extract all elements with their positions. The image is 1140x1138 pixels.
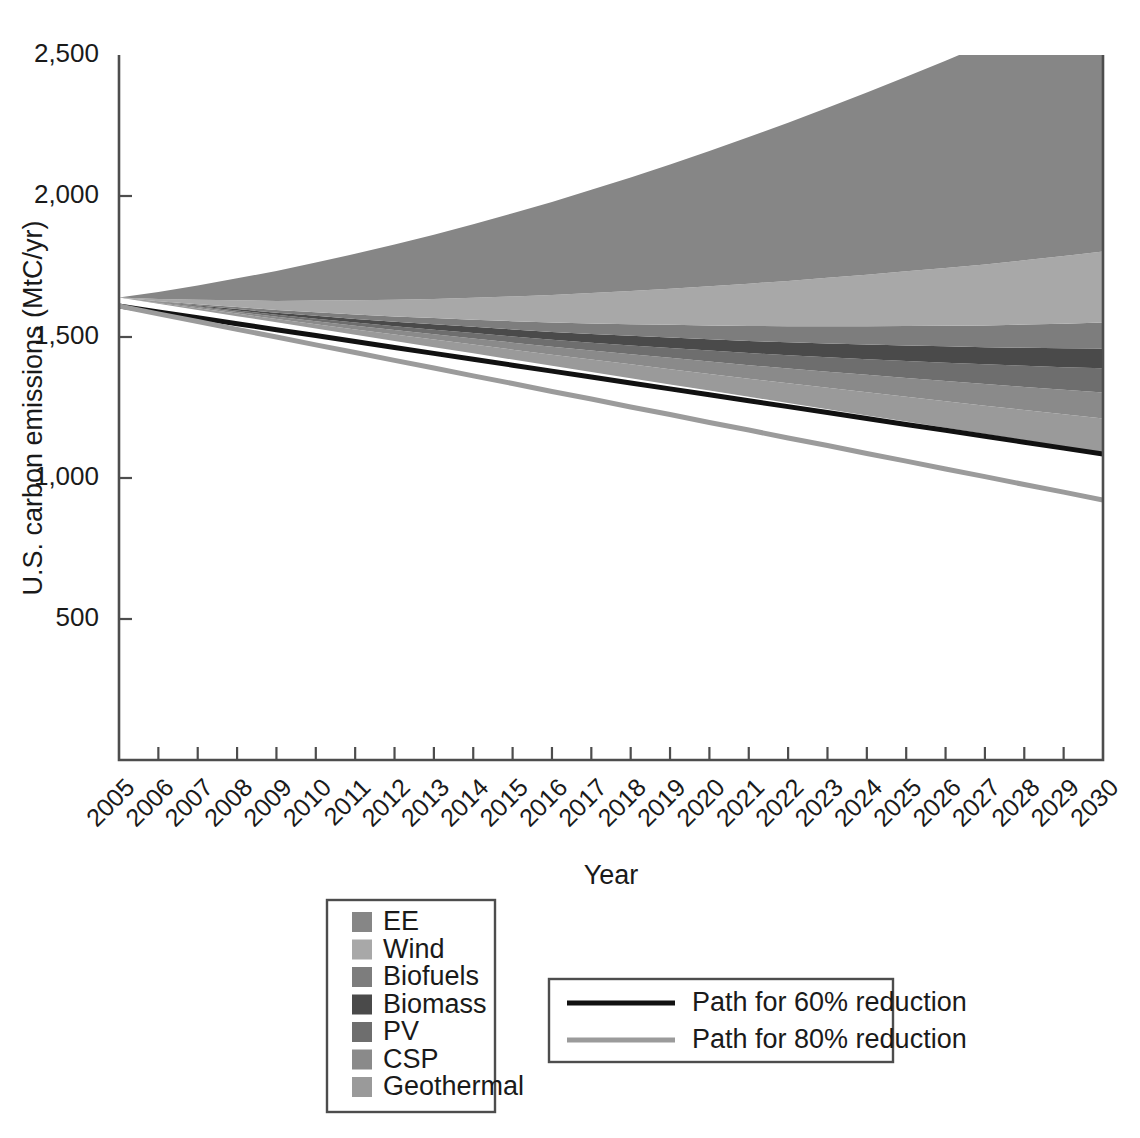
legend-label-csp: CSP — [383, 1044, 439, 1074]
legend-swatch-ee — [352, 912, 372, 932]
legend-label-60-reduction: Path for 60% reduction — [692, 987, 967, 1017]
legend-swatch-biomass — [352, 995, 372, 1015]
legend-swatch-wind — [352, 940, 372, 960]
y-axis-title: U.S. carbon emissions (MtC/yr) — [18, 220, 48, 595]
y-tick-label: 500 — [56, 602, 99, 632]
legend-swatch-csp — [352, 1050, 372, 1070]
legend-label-geothermal: Geothermal — [383, 1071, 524, 1101]
legend-label-biofuels: Biofuels — [383, 961, 479, 991]
area-legend: EEWindBiofuelsBiomassPVCSPGeothermal — [327, 900, 524, 1112]
legend-label-pv: PV — [383, 1016, 419, 1046]
y-tick-label: 2,000 — [34, 179, 99, 209]
legend-swatch-pv — [352, 1022, 372, 1042]
legend-label-ee: EE — [383, 906, 419, 936]
legend-swatch-geothermal — [352, 1077, 372, 1097]
legend-label-80-reduction: Path for 80% reduction — [692, 1024, 967, 1054]
legend-label-wind: Wind — [383, 934, 445, 964]
legend-label-biomass: Biomass — [383, 989, 487, 1019]
legend-swatch-biofuels — [352, 967, 372, 987]
x-axis-title: Year — [584, 860, 639, 890]
carbon-emissions-area-chart: 5001,0001,5002,0002,500 2005200620072008… — [0, 0, 1140, 1138]
y-tick-label: 2,500 — [34, 38, 99, 68]
